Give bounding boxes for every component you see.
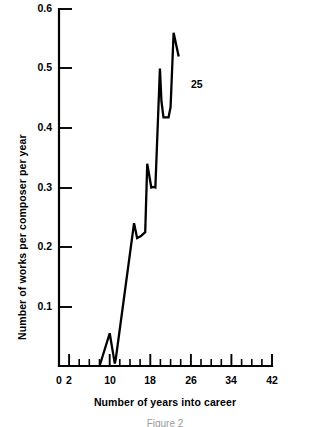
data-series-line	[100, 33, 179, 366]
figure-container: 0.6 0.5 0.4 0.3 0.2 0.1 0 2 10 18 26 34 …	[0, 0, 316, 427]
y-axis-ticks	[59, 9, 72, 307]
x-axis-title: Number of years into career	[40, 396, 290, 408]
x-tick-label-26: 26	[179, 375, 203, 386]
x-tick-label-2: 2	[57, 375, 81, 386]
x-tick-label-18: 18	[138, 375, 162, 386]
figure-caption: Figure 2	[40, 418, 290, 427]
y-tick-label-0-6: 0.6	[18, 3, 52, 14]
data-annotation-25: 25	[191, 78, 203, 90]
y-axis-title: Number of works per composer per year	[16, 20, 32, 340]
x-tick-label-42: 42	[260, 375, 284, 386]
x-tick-label-10: 10	[98, 375, 122, 386]
x-tick-label-34: 34	[219, 375, 243, 386]
x-axis-ticks	[59, 354, 272, 366]
